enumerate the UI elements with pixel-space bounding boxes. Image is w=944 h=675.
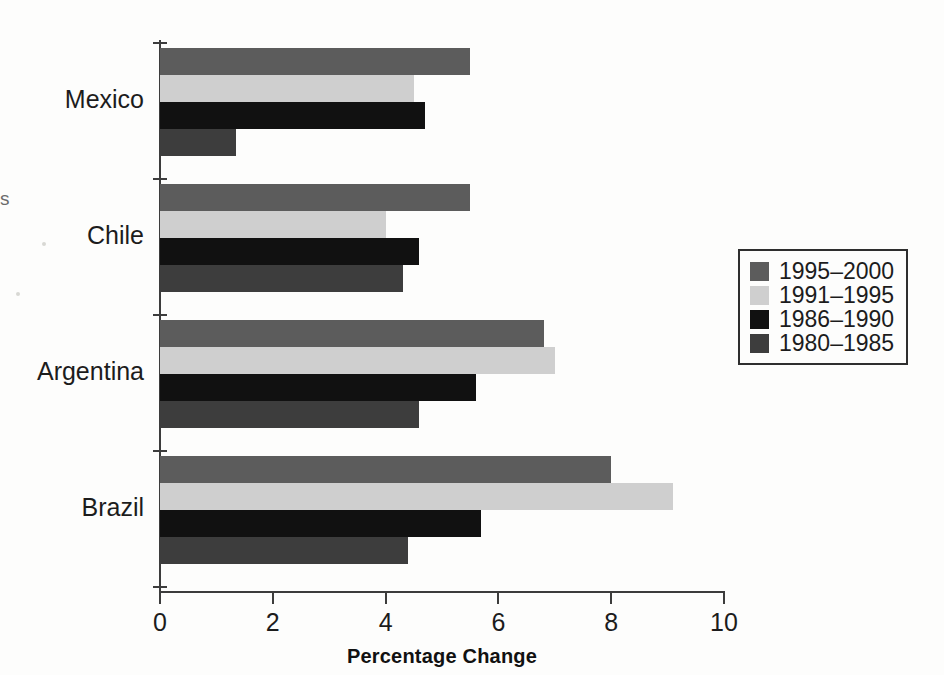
legend-item-label: 1991–1995: [779, 284, 894, 307]
bar-group: Mexico: [160, 48, 724, 156]
legend-item[interactable]: 1986–1990: [750, 307, 894, 331]
x-axis-tick-label: 4: [356, 608, 416, 637]
legend-swatch-icon: [750, 286, 769, 305]
y-axis-tick: [153, 178, 167, 180]
bar-group: Argentina: [160, 320, 724, 428]
bar[interactable]: [160, 456, 611, 483]
bar[interactable]: [160, 184, 470, 211]
bar-chart-figure: s MexicoChileArgentinaBrazil 0246810 Per…: [0, 0, 944, 675]
x-axis-title: Percentage Change: [160, 645, 724, 668]
category-label: Chile: [0, 221, 144, 250]
x-axis-tick-label: 10: [694, 608, 754, 637]
x-axis-tick: [610, 591, 612, 604]
x-axis-tick-label: 6: [468, 608, 528, 637]
plot-area: MexicoChileArgentinaBrazil: [160, 44, 724, 592]
y-axis-tick: [153, 314, 167, 316]
bar[interactable]: [160, 129, 236, 156]
x-axis-tick: [272, 591, 274, 604]
x-axis-tick: [723, 591, 725, 604]
x-axis-tick: [497, 591, 499, 604]
bar[interactable]: [160, 510, 481, 537]
y-axis-tick: [153, 586, 167, 588]
bar[interactable]: [160, 483, 673, 510]
bar[interactable]: [160, 347, 555, 374]
legend-item[interactable]: 1995–2000: [750, 259, 894, 283]
legend-item[interactable]: 1980–1985: [750, 331, 894, 355]
bar[interactable]: [160, 374, 476, 401]
bar-group: Chile: [160, 184, 724, 292]
legend-item-label: 1980–1985: [779, 332, 894, 355]
legend-item[interactable]: 1991–1995: [750, 283, 894, 307]
legend-swatch-icon: [750, 310, 769, 329]
page-edge-artifact: s: [0, 188, 10, 210]
y-axis-tick: [153, 42, 167, 44]
bar[interactable]: [160, 265, 403, 292]
bar[interactable]: [160, 75, 414, 102]
legend: 1995–2000 1991–1995 1986–1990 1980–1985: [738, 249, 908, 365]
category-label: Brazil: [0, 493, 144, 522]
bar[interactable]: [160, 238, 419, 265]
legend-item-label: 1995–2000: [779, 260, 894, 283]
legend-swatch-icon: [750, 334, 769, 353]
bar[interactable]: [160, 320, 544, 347]
scan-speck: [16, 292, 20, 296]
x-axis-tick-label: 2: [243, 608, 303, 637]
category-label: Mexico: [0, 85, 144, 114]
bar[interactable]: [160, 102, 425, 129]
bar[interactable]: [160, 401, 419, 428]
x-axis-tick: [385, 591, 387, 604]
legend-swatch-icon: [750, 262, 769, 281]
y-axis-tick: [153, 450, 167, 452]
x-axis-tick-label: 0: [130, 608, 190, 637]
legend-item-label: 1986–1990: [779, 308, 894, 331]
category-label: Argentina: [0, 357, 144, 386]
bar[interactable]: [160, 211, 386, 238]
x-axis-tick: [159, 591, 161, 604]
x-axis-tick-label: 8: [581, 608, 641, 637]
bar[interactable]: [160, 48, 470, 75]
bar-group: Brazil: [160, 456, 724, 564]
bar[interactable]: [160, 537, 408, 564]
